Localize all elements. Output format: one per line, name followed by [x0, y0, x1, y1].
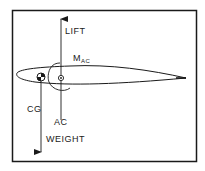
diagram-frame [13, 11, 197, 162]
moment-label: MAC [73, 53, 91, 64]
weight-label: WEIGHT [46, 134, 85, 144]
ac-symbol-icon [58, 75, 63, 80]
cg-symbol-icon [37, 73, 45, 81]
airfoil-diagram: LIFT MAC CG AC WEIGHT [0, 0, 205, 171]
lift-label: LIFT [65, 26, 86, 36]
cg-label: CG [27, 104, 42, 114]
ac-label: AC [54, 117, 68, 127]
